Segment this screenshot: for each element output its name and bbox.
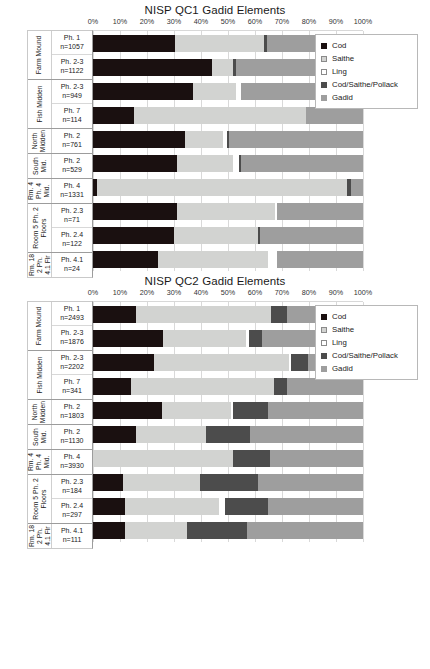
legend-item-cod[interactable]: Cod: [321, 310, 411, 323]
legend-swatch-icon: [321, 43, 327, 49]
label-group: NorthMiddenPh. 2n=1803: [28, 400, 92, 425]
label-group: Rm. 4Ph. 4Mid.Ph. 4n=3930: [28, 450, 92, 475]
bar-segment-cod: [93, 426, 136, 443]
row-sample-size: n=3930: [60, 462, 84, 471]
bar-segment-saithe: [177, 155, 234, 172]
row-label: Ph. 2-3n=1122: [52, 55, 92, 79]
row-phase-label: Ph. 2: [64, 132, 80, 141]
legend-item-saithe[interactable]: Saithe: [321, 323, 411, 336]
legend-item-gadid[interactable]: Gadid: [321, 91, 411, 104]
group-rows: Ph. 4.1n=111: [52, 524, 92, 548]
row-phase-label: Ph. 2.3: [61, 207, 83, 216]
legend-label: Cod/Saithe/Pollack: [332, 351, 398, 360]
label-group: Fish MiddenPh. 2-3n=2202Ph. 7n=341: [28, 351, 92, 400]
row-sample-size: n=529: [62, 166, 82, 175]
bar-segment-saithe: [131, 378, 274, 395]
row-label: Ph. 2n=1803: [52, 400, 92, 424]
bar-segment-saithe: [174, 227, 258, 244]
group-rows: Ph. 2.3n=71Ph. 2.4n=122: [52, 204, 92, 252]
row-sample-size: n=1122: [60, 67, 83, 76]
row-sample-size: n=184: [62, 487, 82, 496]
legend-label: Cod/Saithe/Pollack: [332, 80, 398, 89]
x-tick-label: 0%: [88, 288, 98, 297]
group-name: Rm. 4Ph. 4Mid.: [28, 450, 52, 474]
bar-segment-saithe: [154, 354, 289, 371]
row-label: Ph. 2-3n=2202: [52, 351, 92, 375]
row-phase-label: Ph. 7: [64, 107, 80, 116]
row-label: Ph. 2.3n=184: [52, 475, 92, 499]
legend-item-csp[interactable]: Cod/Saithe/Pollack: [321, 78, 411, 91]
bar-segment-gadid: [268, 402, 363, 419]
bar-segment-cod: [93, 354, 154, 371]
group-name-line: Fish Midden: [36, 356, 44, 393]
x-tick-label: 10%: [113, 17, 127, 26]
row-phase-label: Ph. 2.4: [61, 502, 83, 511]
bar-segment-saithe: [162, 402, 231, 419]
legend-label: Saithe: [332, 325, 354, 334]
x-tick-label: 90%: [329, 288, 343, 297]
stacked-bar: [93, 107, 363, 124]
bar-segment-saithe: [136, 306, 271, 323]
bar-segment-saithe: [136, 426, 206, 443]
legend-item-csp[interactable]: Cod/Saithe/Pollack: [321, 349, 411, 362]
row-label: Ph. 4n=1331: [52, 179, 92, 203]
legend-item-gadid[interactable]: Gadid: [321, 362, 411, 375]
bar-row: [93, 199, 363, 223]
legend-swatch-icon: [321, 327, 327, 333]
group-name-line: Room 5 Ph. 2: [32, 478, 40, 520]
bar-segment-csp: [200, 474, 258, 491]
legend-item-cod[interactable]: Cod: [321, 39, 411, 52]
group-name-line: Farm Mound: [36, 36, 44, 75]
legend-swatch-icon: [321, 82, 327, 88]
x-tick-label: 100%: [354, 17, 372, 26]
group-name-line: Midden: [39, 401, 47, 423]
bar-segment-saithe: [123, 474, 200, 491]
legend-label: Ling: [332, 338, 347, 347]
group-name-line: Mid.: [39, 428, 47, 446]
bar-row: [93, 470, 363, 494]
label-group: Farm MoundPh. 1n=2493Ph. 2-3n=1876: [28, 302, 92, 351]
group-rows: Ph. 2n=1803: [52, 400, 92, 424]
group-name: Room 5 Ph. 2Floors: [28, 204, 52, 252]
stacked-bar: [93, 203, 363, 220]
bar-segment-saithe: [193, 83, 236, 100]
label-group: Farm MoundPh. 1n=1057Ph. 2-3n=1122: [28, 31, 92, 80]
row-sample-size: n=297: [62, 511, 82, 520]
legend-swatch-icon: [321, 69, 327, 75]
bar-segment-cod: [93, 227, 174, 244]
label-group: Rm. 4Ph. 4Mid.Ph. 4n=1331: [28, 179, 92, 204]
group-rows: Ph. 2n=761: [52, 129, 92, 153]
group-name-line: Mid.: [43, 182, 51, 200]
legend-item-ling[interactable]: Ling: [321, 65, 411, 78]
row-phase-label: Ph. 2.4: [61, 231, 83, 240]
row-label: Ph. 2.4n=297: [52, 499, 92, 523]
x-tick-label: 60%: [248, 17, 262, 26]
group-name: Room 5 Ph. 2Floors: [28, 475, 52, 523]
bar-segment-cod: [93, 131, 185, 148]
row-sample-size: n=114: [62, 116, 81, 125]
stacked-bar: [93, 251, 363, 268]
row-sample-size: n=71: [64, 216, 80, 225]
plot-wrapper: Farm MoundPh. 1n=2493Ph. 2-3n=1876Fish M…: [0, 301, 430, 542]
x-tick-label: 10%: [113, 288, 127, 297]
bar-segment-cod: [93, 474, 123, 491]
stacked-bar: [93, 155, 363, 172]
x-tick-label: 40%: [194, 17, 208, 26]
bar-segment-saithe: [93, 450, 233, 467]
plot-wrapper: Farm MoundPh. 1n=1057Ph. 2-3n=1122Fish M…: [0, 30, 430, 271]
row-label-table: Farm MoundPh. 1n=1057Ph. 2-3n=1122Fish M…: [27, 30, 93, 278]
bar-segment-saithe: [158, 251, 269, 268]
chart-1: NISP QC1 Gadid Elements0%10%20%30%40%50%…: [0, 0, 430, 271]
legend-swatch-icon: [321, 314, 327, 320]
row-sample-size: n=2493: [60, 314, 84, 323]
legend-item-ling[interactable]: Ling: [321, 336, 411, 349]
group-name-line: 4.1 Flr: [43, 525, 51, 547]
legend-item-saithe[interactable]: Saithe: [321, 52, 411, 65]
group-name-line: Fish Midden: [36, 85, 44, 122]
group-name-line: Midden: [39, 130, 47, 152]
row-label-table: Farm MoundPh. 1n=2493Ph. 2-3n=1876Fish M…: [27, 301, 93, 549]
x-tick-label: 20%: [140, 17, 154, 26]
row-phase-label: Ph. 7: [64, 378, 80, 387]
group-rows: Ph. 4n=1331: [52, 179, 92, 203]
row-phase-label: Ph. 4: [64, 182, 80, 191]
